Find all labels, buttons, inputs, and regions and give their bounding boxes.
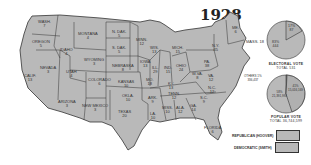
state-ev: 12 <box>209 77 213 82</box>
state-label-la: LA.10 <box>150 112 156 120</box>
state-ev: 45 <box>213 47 217 52</box>
state-label-mich: MICH.15 <box>172 46 183 54</box>
state-label-ark: ARK.9 <box>148 96 157 104</box>
state-label-kansas: KANSAS10 <box>118 80 134 88</box>
state-ev: 10 <box>151 115 155 120</box>
state-label-iowa: IOWA13 <box>140 60 151 68</box>
state-label-colorado: COLORADO6 <box>88 78 111 86</box>
state-label-calif: CALIF.13 <box>24 74 36 82</box>
state-ev: 12 <box>139 41 143 46</box>
state-ev: 13 <box>28 77 32 82</box>
state-label-minn: MINN.12 <box>136 38 147 46</box>
state-ev: 12 <box>210 89 214 94</box>
state-label-okla: OKLA.10 <box>122 94 134 102</box>
popular-democratic-label: 41%15,016,169 <box>288 84 303 92</box>
state-ev: 3 <box>47 69 49 74</box>
legend-republican: REPUBLICAN (HOOVER) <box>232 130 300 141</box>
state-label-mass: MASS. 18 <box>246 40 264 44</box>
votes: 444 <box>273 44 279 48</box>
state-name: MASS. <box>246 39 258 44</box>
state-ev: 10 <box>126 97 130 102</box>
state-label-n-dak: N. DAK.5 <box>112 30 126 38</box>
state-ev: 10 <box>165 109 169 114</box>
legend-democratic: DEMOCRATIC (SMITH) <box>234 142 299 153</box>
state-ev: 5 <box>118 33 120 38</box>
state-label-miss: MISS.10 <box>162 106 173 114</box>
state-ev: 9 <box>152 99 154 104</box>
state-ev: 18 <box>260 39 264 44</box>
state-label-ind: IND.15 <box>164 66 172 74</box>
popular-others-label: OTHERS 1%336,437 <box>244 74 262 82</box>
votes: 15,016,169 <box>288 88 303 92</box>
state-ev: 24 <box>179 67 183 72</box>
state-ev: 13 <box>143 63 147 68</box>
state-ev: 9 <box>203 99 205 104</box>
state-label-wis: WIS.13 <box>150 46 159 54</box>
state-ev: 15 <box>166 69 170 74</box>
state-label-nebraska: NEBRASKA8 <box>112 64 134 72</box>
state-ev: 4 <box>65 51 67 56</box>
state-ev: 8 <box>122 67 124 72</box>
state-label-idaho: IDAHO4 <box>60 48 73 56</box>
state-label-ky: KY.13 <box>168 82 174 90</box>
votes: 336,437 <box>247 78 258 82</box>
state-ev: 20 <box>122 113 126 118</box>
state-ev: 6 <box>98 81 100 86</box>
popular-republican-label: 58%21,391,993 <box>272 90 287 98</box>
state-label-mo: MO.18 <box>146 78 154 86</box>
legend-label: REPUBLICAN (HOOVER) <box>232 134 273 138</box>
electoral-republican-label: 83%444 <box>272 40 279 48</box>
state-label-oregon: OREGON5 <box>32 40 50 48</box>
state-label-texas: TEXAS20 <box>118 110 131 118</box>
state-label-florida: FLORIDA6 <box>204 126 221 134</box>
state-ev: 3 <box>93 61 95 66</box>
state-ev: 3 <box>94 107 96 112</box>
state-label-wash: WASH.7 <box>38 20 51 28</box>
state-ev: 12 <box>178 109 182 114</box>
state-label-wyoming: WYOMING3 <box>84 58 104 66</box>
state-ev: 7 <box>43 23 45 28</box>
state-label-me: ME.6 <box>232 26 239 34</box>
legend-swatch <box>275 142 299 153</box>
state-ev: 38 <box>205 63 209 68</box>
legend-swatch <box>276 130 300 141</box>
state-ev: 5 <box>118 49 120 54</box>
state-ev: 29 <box>153 69 157 74</box>
total-text: TOTAL 531 <box>276 66 295 70</box>
state-ev: 4 <box>87 35 89 40</box>
state-label-sc: S.C.9 <box>200 96 208 104</box>
state-ev: 4 <box>70 73 72 78</box>
state-label-montana: MONTANA4 <box>78 32 98 40</box>
state-ev: 6 <box>212 129 214 134</box>
state-label-utah: UTAH4 <box>66 70 77 78</box>
state-ev: 6 <box>234 29 236 34</box>
state-label-arizona: ARIZONA3 <box>58 100 76 108</box>
state-ev: 15 <box>175 49 179 54</box>
state-label-new-mexico: NEW MEXICO3 <box>82 104 108 112</box>
state-label-ill: ILL.29 <box>152 66 159 74</box>
state-ev: 14 <box>191 107 195 112</box>
state-ev: 13 <box>169 85 173 90</box>
legend-label: DEMOCRATIC (SMITH) <box>234 146 272 150</box>
votes: 21,391,993 <box>272 94 287 98</box>
state-ev: 8 <box>196 75 198 80</box>
total-text: TOTAL 36,744,599 <box>270 119 303 123</box>
electoral-vote-caption: ELECTORAL VOTETOTAL 531 <box>260 62 311 70</box>
state-label-nevada: NEVADA3 <box>40 66 56 74</box>
state-ev: 18 <box>148 81 152 86</box>
state-label-va: VA.12 <box>208 74 214 82</box>
state-ev: 3 <box>66 103 68 108</box>
state-label-wva: W.VA.8 <box>192 72 203 80</box>
state-label-ga: GA.14 <box>190 104 197 112</box>
state-ev: 13 <box>152 49 156 54</box>
state-label-nc: N.C.12 <box>208 86 216 94</box>
state-label-ohio: OHIO24 <box>176 64 186 72</box>
electoral-democratic-label: 17%87 <box>288 24 295 32</box>
state-label-ny: N.Y.45 <box>212 44 219 52</box>
state-label-ala: ALA.12 <box>176 106 185 114</box>
votes: 87 <box>290 28 294 32</box>
state-label-pa: PA.38 <box>204 60 210 68</box>
state-label-tenn: TENN.12 <box>168 92 180 100</box>
state-ev: 5 <box>40 43 42 48</box>
state-ev: 10 <box>124 83 128 88</box>
